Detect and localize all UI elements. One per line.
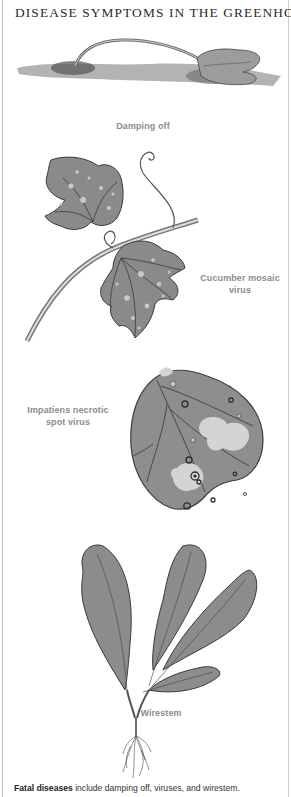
wirestem-caption: Wirestem <box>131 707 191 719</box>
wirestem-illustration <box>53 540 263 780</box>
cucumber-mosaic-virus-illustration <box>13 148 203 343</box>
cucumber-mosaic-caption-line1: Cucumber mosaic <box>195 272 285 284</box>
impatiens-caption: Impatiens necrotic spot virus <box>23 404 113 428</box>
footer-bold: Fatal diseases <box>14 783 73 793</box>
damping-off-illustration <box>11 38 286 108</box>
footer-note: Fatal diseases include damping off, viru… <box>14 783 240 793</box>
impatiens-caption-line1: Impatiens necrotic <box>23 404 113 416</box>
damping-off-caption: Damping off <box>103 120 183 132</box>
cucumber-mosaic-caption: Cucumber mosaic virus <box>195 272 285 296</box>
footer-text: include damping off, viruses, and wirest… <box>73 783 240 793</box>
cucumber-mosaic-caption-line2: virus <box>195 284 285 296</box>
page-title: DISEASE SYMPTOMS IN THE GREENHOUSE <box>15 5 291 21</box>
impatiens-caption-line2: spot virus <box>23 416 113 428</box>
page-frame: DISEASE SYMPTOMS IN THE GREENHOUSE Dampi… <box>2 0 289 797</box>
impatiens-necrotic-spot-virus-illustration <box>127 364 267 512</box>
